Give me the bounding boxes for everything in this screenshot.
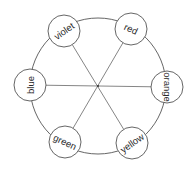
- node-red: red: [115, 13, 147, 45]
- color-wheel-diagram: violetredorangeyellowgreenblue: [0, 0, 195, 172]
- node-green: green: [49, 126, 81, 158]
- node-yellow: yellow: [116, 127, 148, 159]
- node-blue: blue: [14, 69, 46, 101]
- node-violet: violet: [48, 15, 80, 47]
- node-orange: orange: [151, 71, 183, 103]
- center-point: [97, 85, 99, 87]
- node-label: orange: [162, 72, 173, 102]
- node-label: blue: [25, 76, 36, 94]
